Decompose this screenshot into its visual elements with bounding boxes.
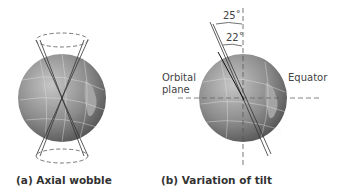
caption-variation-of-tilt: (b) Variation of tilt <box>161 174 272 186</box>
equator-label: Equator <box>288 72 327 83</box>
angle-label-22: 22˚ <box>226 32 244 43</box>
angle-label-25: 25˚ <box>223 10 241 21</box>
caption-axial-wobble: (a) Axial wobble <box>16 174 112 186</box>
orbital-plane-label-line2: plane <box>162 84 190 95</box>
diagram-canvas <box>0 0 340 192</box>
orbital-plane-label-line1: Orbital <box>162 72 196 83</box>
